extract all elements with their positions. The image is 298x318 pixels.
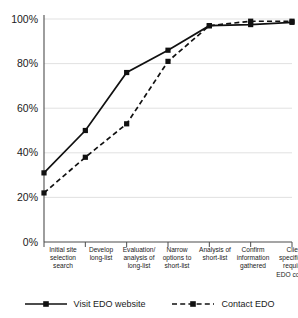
legend-marker xyxy=(43,301,49,307)
x-axis-category-label: Develop long-list xyxy=(82,246,120,292)
line-chart: 100%80%60%40%20%0% Initial site selectio… xyxy=(0,0,298,318)
series-line-1 xyxy=(44,22,292,173)
legend-label: Visit EDO website xyxy=(74,299,146,309)
plot-area: 100%80%60%40%20%0% xyxy=(0,0,298,260)
y-axis-tick-label: 100% xyxy=(11,13,38,25)
chart-legend: Visit EDO websiteContact EDO xyxy=(0,293,298,315)
legend-swatch-dashed xyxy=(171,299,215,309)
legend-item-1[interactable]: Visit EDO website xyxy=(24,299,146,309)
legend-swatch-solid xyxy=(24,299,68,309)
x-axis-category-label: Client specifically requires EDO contact xyxy=(272,246,298,292)
x-axis-label-columns: Initial site selection searchDevelop lon… xyxy=(44,246,298,292)
data-point-marker xyxy=(41,170,46,175)
data-point-marker xyxy=(83,155,88,160)
data-point-marker xyxy=(124,70,129,75)
x-axis-labels: Initial site selection searchDevelop lon… xyxy=(0,246,298,292)
data-point-marker xyxy=(41,190,46,195)
data-point-marker xyxy=(289,19,294,24)
data-point-marker xyxy=(207,23,212,28)
y-axis-tick-label: 20% xyxy=(17,191,38,203)
legend-label: Contact EDO xyxy=(221,299,274,309)
x-axis-category-label: Narrow options to short-list xyxy=(158,246,196,292)
data-point-marker xyxy=(124,121,129,126)
x-axis-category-label: Initial site selection search xyxy=(44,246,82,292)
data-point-marker xyxy=(248,19,253,24)
legend-item-2[interactable]: Contact EDO xyxy=(171,299,274,309)
legend-marker xyxy=(191,301,197,307)
data-point-marker xyxy=(165,59,170,64)
x-axis-category-label: Evaluation/ analysis of long-list xyxy=(120,246,158,292)
series-layer xyxy=(41,19,294,196)
x-axis-category-label: Confirm information gathered xyxy=(234,246,272,292)
y-axis-tick-label: 80% xyxy=(17,57,38,69)
data-point-marker xyxy=(83,128,88,133)
data-point-marker xyxy=(165,48,170,53)
gridlines xyxy=(44,19,292,197)
x-axis-category-label: Analysis of short-list xyxy=(196,246,234,292)
series-line-2 xyxy=(44,21,292,193)
y-axis-tick-labels: 100%80%60%40%20%0% xyxy=(11,13,38,248)
x-axis-label-spacer xyxy=(0,246,44,292)
chart-canvas: 100%80%60%40%20%0% xyxy=(0,0,298,260)
y-axis-tick-label: 60% xyxy=(17,102,38,114)
y-axis-tick-label: 40% xyxy=(17,146,38,158)
